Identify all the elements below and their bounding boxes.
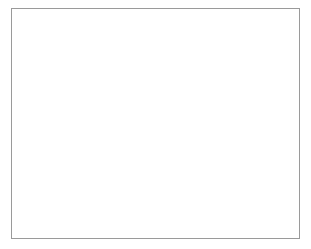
chart-frame-border xyxy=(11,8,300,239)
chart-container: 0510152025197019751980198519901995200020… xyxy=(0,0,311,249)
